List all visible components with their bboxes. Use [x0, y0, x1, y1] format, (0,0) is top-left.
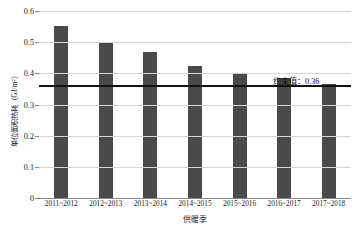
x-tick-label: 2017~2018 [312, 199, 345, 208]
gridline [39, 167, 351, 168]
y-tick-mark [35, 11, 39, 12]
bar[interactable] [99, 43, 113, 198]
y-tick-label: 0.1 [24, 162, 34, 171]
y-tick-label: 0.2 [24, 131, 34, 140]
plot-area: 约束值：0.36 [39, 11, 351, 198]
x-tick-label: 2013~2014 [134, 199, 167, 208]
x-tick-label: 2015~2016 [223, 199, 256, 208]
gridline [39, 11, 351, 12]
gridline [39, 42, 351, 43]
constraint-line-label: 约束值：0.36 [273, 74, 319, 86]
y-tick-label: 0.5 [24, 38, 34, 47]
y-tick-label: 0 [30, 194, 34, 203]
y-tick-mark [35, 42, 39, 43]
chart-container: 单位面积热耗（GJ/m²） 00.10.20.30.40.50.6 约束值：0.… [0, 0, 354, 235]
x-tick-label: 2012~2013 [89, 199, 122, 208]
y-tick-label: 0.4 [24, 69, 34, 78]
y-tick-mark [35, 136, 39, 137]
x-axis-title: 供暖季 [39, 213, 351, 224]
y-tick-mark [35, 73, 39, 74]
bar[interactable] [54, 26, 68, 198]
y-tick-mark [35, 105, 39, 106]
gridline [39, 136, 351, 137]
y-axis-tick-labels: 00.10.20.30.40.50.6 [0, 0, 38, 235]
y-tick-label: 0.6 [24, 7, 34, 16]
y-tick-mark [35, 167, 39, 168]
x-tick-label: 2014~2015 [178, 199, 211, 208]
x-axis-tick-labels: 2011~20122012~20132013~20142014~20152015… [39, 199, 351, 213]
y-tick-label: 0.3 [24, 100, 34, 109]
x-tick-label: 2011~2012 [45, 199, 78, 208]
x-tick-label: 2016~2017 [268, 199, 301, 208]
bar[interactable] [277, 78, 291, 198]
bar[interactable] [322, 84, 336, 198]
gridline [39, 105, 351, 106]
